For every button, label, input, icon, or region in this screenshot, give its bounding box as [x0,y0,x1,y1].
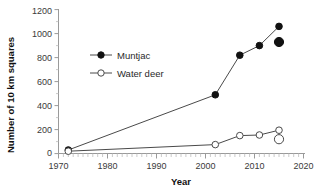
muntjac-line [68,26,279,150]
muntjac-markers [65,23,282,153]
y-tick-label: 1200 [32,6,52,16]
chart-figure: Number of 10 km squares 1200 1000 800 60… [0,0,326,195]
filled-circle-icon [98,52,104,58]
series-muntjac [65,23,284,153]
x-tick-label: 2020 [293,161,313,171]
y-tick-label: 1000 [32,29,52,39]
series-water-deer [65,127,284,155]
data-point-marker [65,148,72,155]
x-tick-label: 2010 [244,161,264,171]
y-axis-title: Number of 10 km squares [5,37,16,153]
x-tick-label: 1980 [97,161,117,171]
legend-label-water-deer: Water deer [117,68,164,79]
y-axis-major-ticks [55,10,59,154]
y-tick-label: 0 [47,148,52,158]
data-point-marker [237,52,244,59]
x-tick-label: 2000 [195,161,215,171]
legend-item-muntjac[interactable]: Muntjac [90,50,151,61]
data-point-marker [256,42,263,49]
legend-label-muntjac: Muntjac [117,50,151,61]
line-chart-canvas: Number of 10 km squares 1200 1000 800 60… [0,0,326,195]
open-circle-icon [98,70,104,76]
data-point-marker [212,141,219,148]
x-axis-minor-ticks [63,154,298,158]
data-point-marker [276,23,283,30]
chart-legend: Muntjac Water deer [90,50,164,79]
legend-item-water-deer[interactable]: Water deer [90,68,164,79]
data-point-marker [237,132,244,139]
x-tick-label: 1970 [48,161,68,171]
data-point-marker [212,92,219,99]
x-axis-tick-labels: 1970 1980 1990 2000 2010 2020 [48,161,313,171]
x-tick-label: 1990 [146,161,166,171]
y-tick-label: 600 [37,77,52,87]
y-tick-label: 200 [37,125,52,135]
y-tick-label: 800 [37,53,52,63]
x-axis-title: Year [171,176,191,187]
water-deer-line [68,130,279,151]
y-tick-label: 400 [37,101,52,111]
y-axis-tick-labels: 1200 1000 800 600 400 200 0 [32,6,52,159]
data-point-marker [276,127,283,134]
data-point-marker [256,132,263,139]
muntjac-extra-point [274,37,283,46]
water-deer-extra-point [274,135,283,144]
